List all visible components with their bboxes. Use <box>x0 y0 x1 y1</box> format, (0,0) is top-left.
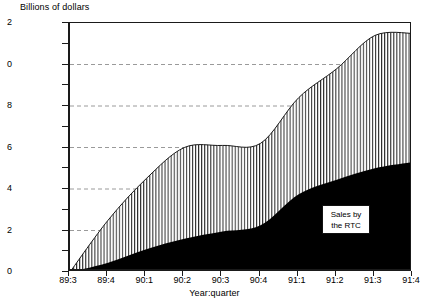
y-axis-label: 2 <box>0 225 12 235</box>
y-axis-label: 6 <box>0 142 12 152</box>
y-axis-label: 8 <box>0 100 12 110</box>
chart-title: Billions of dollars <box>20 2 89 12</box>
legend-line-1: Sales by <box>331 209 362 220</box>
x-axis-label: 91:4 <box>381 275 429 285</box>
y-axis-label: 4 <box>0 183 12 193</box>
x-axis-title: Year:quarter <box>0 288 429 298</box>
legend-sales-by-rtc: Sales by the RTC <box>322 205 370 234</box>
y-axis-label: 0 <box>0 59 12 69</box>
y-axis-label: 0 <box>0 266 12 276</box>
y-axis-label: 2 <box>0 17 12 27</box>
chart-figure: Billions of dollars 2086420 89:389:490:1… <box>0 0 429 307</box>
legend-line-2: the RTC <box>331 220 361 231</box>
